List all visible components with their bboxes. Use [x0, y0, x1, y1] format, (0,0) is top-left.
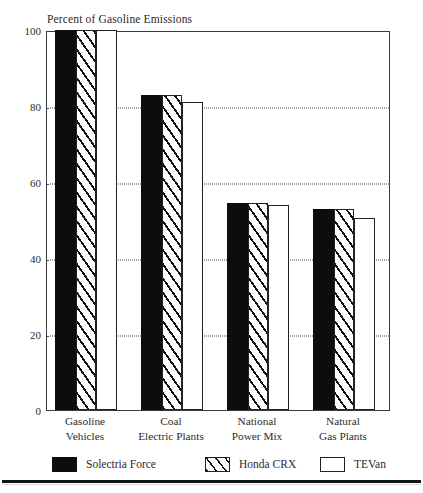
bar — [354, 218, 375, 410]
legend-item[interactable]: Solectria Force — [52, 455, 156, 473]
legend-item[interactable]: Honda CRX — [205, 455, 296, 473]
bar — [334, 209, 355, 410]
bar — [76, 30, 97, 410]
x-category-label-line: Electric Plants — [138, 429, 204, 444]
legend-label: Solectria Force — [86, 458, 156, 470]
legend-swatch-icon — [52, 457, 77, 472]
y-tick-label-40: 40 — [0, 253, 41, 265]
legend-swatch-icon — [205, 457, 230, 472]
bar — [162, 95, 183, 410]
x-axis-category-labels: GasolineVehiclesCoalElectric PlantsNatio… — [46, 414, 390, 454]
bar-group — [47, 32, 133, 410]
x-category-label-line: Coal — [138, 414, 204, 429]
bar — [313, 209, 334, 410]
y-axis-labels: 020406080100 — [0, 31, 41, 411]
x-category-label: NationalPower Mix — [232, 414, 283, 443]
legend-item[interactable]: TEVan — [320, 455, 386, 473]
legend-label: TEVan — [354, 458, 386, 470]
y-tick-label-100: 100 — [0, 25, 41, 37]
plot-area — [46, 31, 390, 411]
chart-figure: Percent of Gasoline Emissions 0204060801… — [0, 0, 423, 493]
x-category-label-line: National — [232, 414, 283, 429]
chart-title: Percent of Gasoline Emissions — [47, 13, 192, 25]
bars-layer — [47, 32, 389, 410]
footer-rule-shadow — [2, 484, 421, 485]
bar — [227, 203, 248, 410]
y-tick-label-80: 80 — [0, 101, 41, 113]
y-tick-label-0: 0 — [0, 405, 41, 417]
chart-legend: Solectria ForceHonda CRXTEVan — [0, 455, 423, 475]
bar — [96, 30, 117, 410]
y-tick-label-60: 60 — [0, 177, 41, 189]
bar-group — [305, 32, 391, 410]
y-tick-label-20: 20 — [0, 329, 41, 341]
bar-group — [219, 32, 305, 410]
x-category-label: GasolineVehicles — [65, 414, 105, 443]
bar — [268, 205, 289, 410]
x-category-label: NaturalGas Plants — [319, 414, 367, 443]
legend-label: Honda CRX — [239, 458, 296, 470]
x-category-label-line: Vehicles — [65, 429, 105, 444]
bar — [182, 102, 203, 410]
bar — [248, 203, 269, 410]
bar-group — [133, 32, 219, 410]
x-category-label-line: Gas Plants — [319, 429, 367, 444]
legend-swatch-icon — [320, 457, 345, 472]
x-category-label-line: Gasoline — [65, 414, 105, 429]
bar — [55, 30, 76, 410]
footer-rule — [2, 480, 421, 483]
x-category-label: CoalElectric Plants — [138, 414, 204, 443]
x-category-label-line: Natural — [319, 414, 367, 429]
x-category-label-line: Power Mix — [232, 429, 283, 444]
bar — [141, 95, 162, 410]
